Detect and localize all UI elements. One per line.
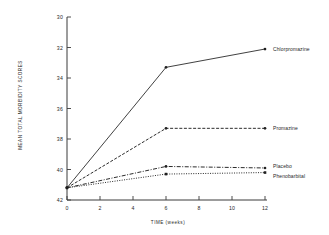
series-layer <box>66 48 267 189</box>
data-point-marker <box>264 171 267 174</box>
x-axis-ticks: 024681012 <box>65 196 268 211</box>
y-axis-title: MEAN TOTAL MORBIDITY SCORES <box>18 60 23 150</box>
y-tick-label: 32 <box>57 45 63 51</box>
series-label-promazine: Promazine <box>273 125 298 131</box>
data-point-marker <box>264 48 267 51</box>
chart-figure: 30323436384042 024681012 ChlorpromazineP… <box>0 0 329 235</box>
x-axis-title: TIME (weeks) <box>151 220 185 225</box>
y-tick-label: 30 <box>57 14 63 20</box>
series-label-chlorpromazine: Chlorpromazine <box>273 46 310 52</box>
series-labels: ChlorpromazinePromazinePlaceboPhenobarbi… <box>273 46 310 179</box>
data-point-marker <box>66 187 69 190</box>
data-point-marker <box>165 165 168 168</box>
data-point-marker <box>165 66 168 69</box>
x-tick-label: 2 <box>98 205 101 211</box>
data-point-marker <box>165 173 168 176</box>
x-tick-label: 4 <box>131 205 134 211</box>
x-tick-label: 0 <box>65 205 68 211</box>
series-label-phenobarbital: Phenobarbital <box>273 173 305 179</box>
x-tick-label: 12 <box>262 205 268 211</box>
y-tick-label: 40 <box>57 167 63 173</box>
x-tick-label: 8 <box>197 205 200 211</box>
x-tick-label: 6 <box>164 205 167 211</box>
x-tick-label: 10 <box>229 205 235 211</box>
y-tick-label: 34 <box>57 75 63 81</box>
line-chart: 30323436384042 024681012 ChlorpromazineP… <box>0 0 329 235</box>
series-label-placebo: Placebo <box>273 163 292 169</box>
y-tick-label: 38 <box>57 136 63 142</box>
y-tick-label: 36 <box>57 106 63 112</box>
y-axis-ticks: 30323436384042 <box>57 14 71 203</box>
data-point-marker <box>264 127 267 130</box>
data-point-marker <box>165 127 168 130</box>
series-line <box>67 128 265 187</box>
y-tick-label: 42 <box>57 197 63 203</box>
data-point-marker <box>264 167 267 170</box>
